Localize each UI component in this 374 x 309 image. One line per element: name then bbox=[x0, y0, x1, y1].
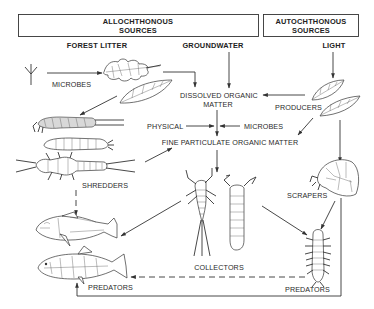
scrapers-to-fish-arrow bbox=[77, 198, 341, 296]
autochthonous-title-line2: SOURCES bbox=[292, 26, 330, 35]
microbes-top-label: MICROBES bbox=[52, 80, 91, 89]
producers-to-fpom-arrow bbox=[298, 118, 313, 135]
groundwater-label: GROUNDWATER bbox=[182, 41, 244, 50]
autochthonous-title-line1: AUTOCHTHONOUS bbox=[275, 17, 346, 26]
allochthonous-sources-box: ALLOCHTHONOUS SOURCES bbox=[19, 15, 259, 37]
scrapers-label: SCRAPERS bbox=[287, 191, 327, 200]
light-label: LIGHT bbox=[322, 41, 345, 50]
predators-fish-label: PREDATORS bbox=[88, 283, 133, 292]
collectors-to-fish-arrow bbox=[121, 201, 181, 236]
shredders-to-fpom-arrow bbox=[145, 148, 172, 162]
forest-litter-label: FOREST LITTER bbox=[67, 41, 128, 50]
collectors-label: COLLECTORS bbox=[194, 263, 244, 272]
predators-insect-label: PREDATORS bbox=[285, 285, 330, 294]
stream-food-web-diagram: ALLOCHTHONOUS SOURCES AUTOCHTHONOUS SOUR… bbox=[0, 0, 374, 309]
dom-label-line2: MATTER bbox=[203, 100, 233, 109]
sculpin-fish-icon bbox=[36, 212, 117, 246]
trout-fish-icon bbox=[38, 246, 127, 284]
producers-label: PRODUCERS bbox=[275, 103, 322, 112]
microbes-mid-label: MICROBES bbox=[244, 122, 283, 131]
twig-icon bbox=[25, 64, 37, 85]
midge-larva-icon bbox=[224, 175, 256, 250]
shredders-label: SHREDDERS bbox=[82, 181, 128, 190]
leaves-to-shredders-arrow bbox=[80, 96, 117, 115]
physical-label: PHYSICAL bbox=[147, 122, 183, 131]
autochthonous-sources-box: AUTOCHTHONOUS SOURCES bbox=[264, 15, 359, 37]
fpom-label: FINE PARTICULATE ORGANIC MATTER bbox=[162, 138, 298, 147]
allochthonous-title-line2: SOURCES bbox=[119, 26, 157, 35]
leaf-icon bbox=[120, 80, 172, 103]
hellgrammite-icon bbox=[305, 230, 331, 288]
caddisfly-case-icon bbox=[33, 117, 124, 133]
mayfly-nymph-icon bbox=[186, 168, 216, 256]
oak-leaf-icon bbox=[104, 59, 161, 81]
allochthonous-title-line1: ALLOCHTHONOUS bbox=[103, 17, 173, 26]
scrapers-to-predators-arrow bbox=[321, 201, 335, 229]
collectors-to-predators-arrow bbox=[262, 206, 307, 235]
stonefly-nymph-icon bbox=[16, 152, 135, 180]
cranefly-larva-icon bbox=[44, 138, 114, 150]
